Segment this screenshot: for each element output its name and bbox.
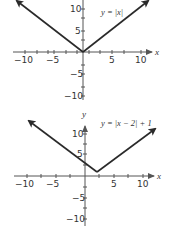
y-tick-label: 5 bbox=[75, 26, 81, 36]
x-tick-label: −10 bbox=[14, 55, 33, 65]
y-tick-label: −10 bbox=[64, 91, 83, 101]
x-tick-label: −10 bbox=[15, 179, 34, 189]
y-tick-label: −5 bbox=[72, 193, 85, 203]
graph-abs-x: x −10 −5 5 10 10 5 −5 −10 y = |x| bbox=[13, 0, 159, 101]
graph-abs-x-minus-2-plus-1: x y −10 −5 5 10 10 5 −5 −10 y = |x − 2| … bbox=[14, 109, 161, 226]
equation-label: y = |x − 2| + 1 bbox=[100, 118, 152, 128]
y-tick-label: 10 bbox=[72, 129, 84, 139]
x-axis-label: x bbox=[154, 47, 159, 57]
x-axis-label: x bbox=[156, 171, 161, 181]
y-tick-label: −5 bbox=[70, 69, 83, 79]
y-tick-label: −10 bbox=[66, 214, 85, 224]
curve-right-arm bbox=[97, 129, 155, 172]
y-axis-label: y bbox=[81, 109, 86, 119]
x-tick-label: 5 bbox=[109, 55, 115, 65]
figure: x −10 −5 5 10 10 5 −5 −10 y = |x| x bbox=[0, 0, 180, 228]
curve-left-arm bbox=[29, 121, 97, 172]
x-tick-label: 10 bbox=[137, 179, 149, 189]
x-tick-label: −5 bbox=[46, 179, 59, 189]
x-tick-label: −5 bbox=[46, 55, 59, 65]
y-tick-label: 10 bbox=[70, 4, 82, 14]
equation-label: y = |x| bbox=[100, 7, 123, 17]
x-tick-label: 5 bbox=[111, 179, 117, 189]
x-tick-label: 10 bbox=[135, 55, 147, 65]
